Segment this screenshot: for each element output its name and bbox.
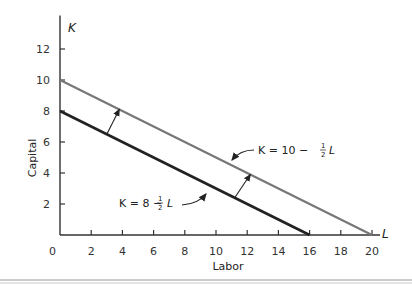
x-tick-label: 4 <box>119 245 126 258</box>
x-tick-label: 10 <box>209 245 223 258</box>
y-tick-label: 4 <box>43 167 50 180</box>
y-tick-label: 12 <box>36 43 50 56</box>
y-axis-variable: K <box>68 21 77 35</box>
x-tick-label: 8 <box>181 245 188 258</box>
series-label-k8-var: L <box>167 197 173 210</box>
y-axis-title: Capital <box>26 139 39 178</box>
series-label-k8-num: 1 <box>158 195 162 203</box>
x-tick-label: 14 <box>271 245 285 258</box>
x-tick-label: 20 <box>365 245 379 258</box>
leader-arrow-k10 <box>232 150 254 160</box>
y-tick-label: 6 <box>43 136 50 149</box>
x-axis-title: Labor <box>212 260 244 273</box>
origin-label: 0 <box>49 245 56 258</box>
axes: 246810121416182024681012 <box>36 16 380 259</box>
x-tick-label: 18 <box>334 245 348 258</box>
x-tick-label: 2 <box>88 245 95 258</box>
x-axis-variable: L <box>382 227 389 241</box>
shift-arrow <box>235 175 251 198</box>
series-label-k10-var: L <box>329 144 335 157</box>
y-tick-label: 10 <box>36 74 50 87</box>
y-tick-label: 8 <box>43 105 50 118</box>
series-label-k10-num: 1 <box>321 142 325 150</box>
series-label-k10-main: K = 10 − <box>258 144 308 157</box>
x-tick-label: 12 <box>240 245 254 258</box>
series-label-k10-den: 2 <box>321 151 325 159</box>
y-tick-label: 2 <box>43 198 50 211</box>
series-label-k8-main: K = 8 − <box>119 197 162 210</box>
annotation-layer <box>107 109 251 197</box>
shift-arrow <box>107 109 119 134</box>
leader-arrow-k8 <box>182 194 206 205</box>
chart: 246810121416182024681012 Labor Capital K… <box>0 0 412 284</box>
x-tick-label: 16 <box>303 245 317 258</box>
series-label-k8: K = 8 − 1 2 L <box>119 195 173 212</box>
x-tick-label: 6 <box>150 245 157 258</box>
series-label-k8-den: 2 <box>158 204 162 212</box>
series-line-0 <box>60 111 310 235</box>
series-label-k10: K = 10 − 1 2 L <box>258 142 335 159</box>
